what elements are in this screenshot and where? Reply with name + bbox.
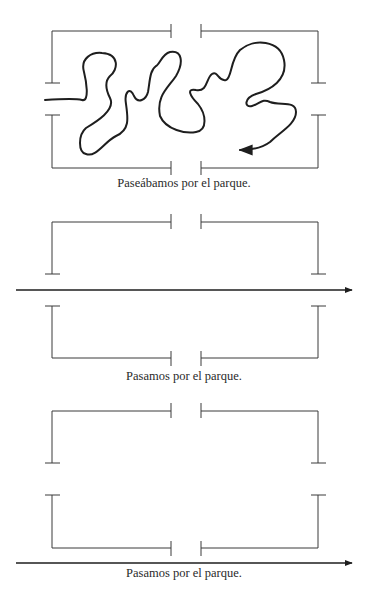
meandering-walk-path bbox=[45, 43, 296, 155]
caption-figure-3: Pasamos por el parque. bbox=[0, 566, 368, 581]
park-frame-1 bbox=[45, 24, 326, 175]
park-diagrams bbox=[0, 0, 368, 601]
park-frame-3 bbox=[45, 403, 326, 556]
caption-figure-1: Paseábamos por el parque. bbox=[0, 176, 368, 191]
caption-figure-2: Pasamos por el parque. bbox=[0, 369, 368, 384]
